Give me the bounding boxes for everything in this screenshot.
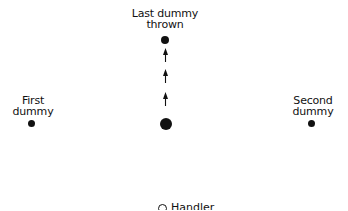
arrow-up-icon bbox=[163, 48, 168, 106]
dog-start-dot bbox=[160, 118, 172, 130]
handler-circle-icon bbox=[158, 204, 167, 211]
handler-label: Handler bbox=[171, 201, 214, 210]
handler-marker: Handler bbox=[158, 202, 214, 210]
retrieve-path-arrows bbox=[0, 0, 348, 210]
